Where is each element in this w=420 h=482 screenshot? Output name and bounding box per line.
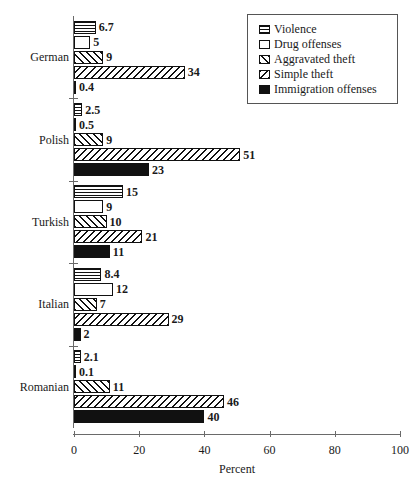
bar-german-aggravated-theft [74,51,103,64]
legend-swatch-icon [259,40,270,49]
bar-polish-aggravated-theft [74,133,103,146]
bar-romanian-simple-theft [74,395,224,408]
legend-swatch-icon [259,25,270,34]
bar-value-label: 7 [100,298,106,310]
legend-label: Drug offenses [274,38,341,50]
bar-turkish-violence [74,185,123,198]
x-axis-title: Percent [73,462,401,477]
bar-romanian-immigration-offenses [74,410,204,423]
bar-group: Turkish159102111 [74,181,400,263]
bar-value-label: 0.5 [79,119,94,131]
bar-turkish-aggravated-theft [74,215,107,228]
bar-group: Polish2.50.595123 [74,98,400,180]
category-label-polish: Polish [39,134,69,146]
legend-label: Immigration offenses [274,83,377,95]
bar-german-simple-theft [74,66,185,79]
x-axis-tick [204,431,205,437]
bar-value-label: 2.5 [85,104,100,116]
bar-group: Romanian2.10.1114640 [74,346,400,428]
x-axis-tick-label: 0 [54,444,94,457]
category-label-turkish: Turkish [32,216,69,228]
bar-german-violence [74,21,96,34]
grouped-bar-chart: German6.759340.4Polish2.50.595123Turkish… [0,0,420,482]
bar-value-label: 15 [126,186,138,198]
x-axis-tick-label: 40 [184,444,224,457]
bar-italian-drug-offenses [74,283,113,296]
bar-value-label: 2.1 [84,351,99,363]
bar-romanian-drug-offenses [74,365,76,378]
bar-italian-simple-theft [74,313,169,326]
bar-value-label: 11 [113,381,124,393]
bar-value-label: 29 [172,313,184,325]
bar-value-label: 10 [110,216,122,228]
bar-turkish-drug-offenses [74,200,103,213]
x-axis-tick-label: 80 [315,444,355,457]
x-axis-tick [74,431,75,437]
legend-swatch-icon [259,70,270,79]
x-axis-tick-label: 60 [250,444,290,457]
x-axis-tick [400,431,401,437]
legend: ViolenceDrug offensesAggravated theftSim… [247,14,398,104]
bar-value-label: 34 [188,66,200,78]
x-axis-tick [270,431,271,437]
bar-value-label: 40 [207,411,219,423]
bar-value-label: 9 [106,51,112,63]
bar-value-label: 11 [113,246,124,258]
bar-polish-drug-offenses [74,118,76,131]
bar-value-label: 0.4 [79,81,94,93]
legend-item-simple-theft[interactable]: Simple theft [259,67,397,81]
x-axis-tick [335,431,336,437]
legend-item-violence[interactable]: Violence [259,22,397,36]
bar-value-label: 8.4 [104,268,119,280]
x-axis-tick-label: 100 [380,444,420,457]
legend-item-drug-offenses[interactable]: Drug offenses [259,37,397,51]
category-label-romanian: Romanian [20,381,69,393]
bar-value-label: 9 [106,134,112,146]
bar-german-drug-offenses [74,36,90,49]
bar-turkish-simple-theft [74,230,142,243]
bar-polish-immigration-offenses [74,163,149,176]
bar-turkish-immigration-offenses [74,245,110,258]
bar-italian-immigration-offenses [74,328,81,341]
bar-value-label: 6.7 [99,21,114,33]
category-label-german: German [30,51,69,63]
bar-value-label: 5 [93,36,99,48]
category-label-italian: Italian [38,298,69,310]
x-axis-tick-label: 20 [119,444,159,457]
legend-swatch-icon [259,85,270,94]
legend-label: Violence [274,23,317,35]
bar-romanian-violence [74,350,81,363]
bar-value-label: 51 [243,149,255,161]
legend-item-immigration-offenses[interactable]: Immigration offenses [259,82,397,96]
x-axis-line [73,434,401,435]
bar-value-label: 9 [106,201,112,213]
bar-value-label: 0.1 [79,366,94,378]
bar-italian-violence [74,268,101,281]
bar-polish-simple-theft [74,148,240,161]
legend-item-aggravated-theft[interactable]: Aggravated theft [259,52,397,66]
bar-italian-aggravated-theft [74,298,97,311]
bar-value-label: 12 [116,283,128,295]
bar-romanian-aggravated-theft [74,380,110,393]
legend-swatch-icon [259,55,270,64]
bar-german-immigration-offenses [74,81,76,94]
bar-value-label: 46 [227,396,239,408]
bar-value-label: 2 [84,328,90,340]
bar-group: Italian8.4127292 [74,263,400,345]
x-axis-tick [139,431,140,437]
bar-value-label: 21 [145,231,157,243]
bar-polish-violence [74,103,82,116]
legend-label: Simple theft [274,68,333,80]
legend-label: Aggravated theft [274,53,355,65]
bar-value-label: 23 [152,164,164,176]
